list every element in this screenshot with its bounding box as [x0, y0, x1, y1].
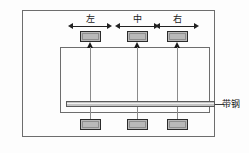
arrow-head-right	[107, 23, 112, 29]
arrow-shaft	[72, 26, 108, 27]
arrow-head-right	[194, 23, 199, 29]
connector-line-right	[177, 47, 178, 119]
top-actuator-block-right	[167, 31, 188, 42]
strip-label: 带钢	[222, 99, 240, 110]
bottom-actuator-block-right	[167, 119, 188, 130]
double-arrow-icon-right	[155, 23, 199, 30]
bottom-actuator-block-middle	[127, 119, 148, 130]
arrow-head-left	[155, 23, 160, 29]
double-arrow-icon-left	[68, 23, 112, 30]
top-actuator-block-middle	[127, 31, 148, 42]
arrow-head-left	[68, 23, 73, 29]
connector-line-left	[90, 47, 91, 119]
arrow-shaft	[119, 26, 155, 27]
arrow-head-left	[115, 23, 120, 29]
connector-line-middle	[137, 47, 138, 119]
top-actuator-block-left	[80, 31, 101, 42]
double-arrow-icon-middle	[115, 23, 159, 30]
steel-strip	[66, 101, 215, 107]
arrow-shaft	[159, 26, 195, 27]
bottom-actuator-block-left	[80, 119, 101, 130]
diagram-canvas: 左 中 右 带钢	[0, 0, 249, 153]
